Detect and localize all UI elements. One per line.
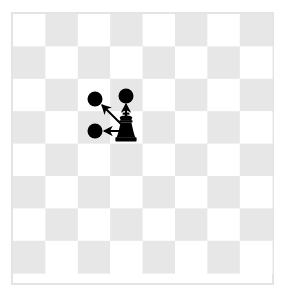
board-square[interactable] — [240, 241, 273, 274]
board-square[interactable] — [110, 144, 143, 177]
board-square[interactable] — [143, 79, 176, 112]
board-canvas — [0, 0, 285, 298]
board-square[interactable] — [45, 111, 78, 144]
board-square[interactable] — [78, 144, 111, 177]
board-square[interactable] — [175, 144, 208, 177]
board-square[interactable] — [45, 79, 78, 112]
board-square[interactable] — [13, 208, 46, 241]
board-square[interactable] — [13, 46, 46, 79]
board-square[interactable] — [207, 46, 240, 79]
board-square[interactable] — [207, 241, 240, 274]
board-square[interactable] — [110, 241, 143, 274]
board-square[interactable] — [207, 111, 240, 144]
board-square[interactable] — [45, 14, 78, 47]
board-square[interactable] — [110, 14, 143, 47]
board-square[interactable] — [45, 46, 78, 79]
board-square[interactable] — [78, 46, 111, 79]
board-square[interactable] — [45, 241, 78, 274]
board-square[interactable] — [78, 14, 111, 47]
board-square[interactable] — [110, 176, 143, 209]
board-square[interactable] — [175, 208, 208, 241]
board-square[interactable] — [175, 14, 208, 47]
board-square[interactable] — [143, 111, 176, 144]
board-square[interactable] — [240, 46, 273, 79]
board-square[interactable] — [45, 208, 78, 241]
board-square[interactable] — [175, 46, 208, 79]
board-square[interactable] — [13, 111, 46, 144]
board-square[interactable] — [240, 144, 273, 177]
board-square[interactable] — [175, 176, 208, 209]
board-square[interactable] — [143, 208, 176, 241]
board-square[interactable] — [13, 176, 46, 209]
board-square[interactable] — [45, 176, 78, 209]
board-square[interactable] — [207, 176, 240, 209]
move-target-dot-left[interactable] — [88, 124, 103, 139]
board-square[interactable] — [240, 111, 273, 144]
board-square[interactable] — [13, 79, 46, 112]
board-square[interactable] — [143, 46, 176, 79]
board-square[interactable] — [13, 241, 46, 274]
board-square[interactable] — [240, 208, 273, 241]
board-square[interactable] — [175, 79, 208, 112]
board-square[interactable] — [13, 14, 46, 47]
board-square[interactable] — [143, 176, 176, 209]
board-square[interactable] — [175, 241, 208, 274]
board-squares — [13, 14, 273, 274]
board-square[interactable] — [240, 79, 273, 112]
board-square[interactable] — [207, 144, 240, 177]
board-square[interactable] — [78, 208, 111, 241]
board-square[interactable] — [175, 111, 208, 144]
board-square[interactable] — [110, 46, 143, 79]
board-square[interactable] — [78, 241, 111, 274]
board-square[interactable] — [110, 208, 143, 241]
board-square[interactable] — [143, 241, 176, 274]
chess-diagram — [0, 0, 285, 298]
board-square[interactable] — [240, 176, 273, 209]
board-square[interactable] — [143, 14, 176, 47]
move-target-dot-up[interactable] — [119, 89, 134, 104]
board-square[interactable] — [13, 144, 46, 177]
board-square[interactable] — [207, 14, 240, 47]
board-square[interactable] — [207, 79, 240, 112]
move-target-dot-up-left[interactable] — [88, 92, 103, 107]
board-square[interactable] — [78, 176, 111, 209]
board-square[interactable] — [143, 144, 176, 177]
board-square[interactable] — [207, 208, 240, 241]
board-square[interactable] — [240, 14, 273, 47]
board-square[interactable] — [45, 144, 78, 177]
